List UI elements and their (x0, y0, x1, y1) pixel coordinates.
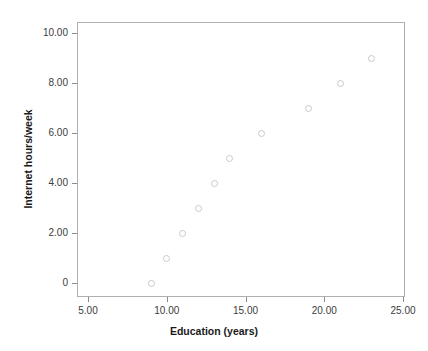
x-tick-label: 20.00 (312, 305, 337, 316)
y-axis-title: Internet hours/week (22, 49, 34, 269)
plot-area-frame (77, 22, 405, 297)
y-tick-label: 4.00 (49, 178, 68, 188)
x-tick-label: 5.00 (78, 305, 97, 316)
y-tick-mark (72, 33, 77, 34)
y-tick-mark (72, 283, 77, 284)
x-tick-mark (88, 297, 89, 302)
x-tick-label: 10.00 (154, 305, 179, 316)
x-tick-mark (403, 297, 404, 302)
x-axis-title: Education (years) (0, 325, 428, 337)
y-tick-label: 6.00 (49, 128, 68, 138)
x-tick-mark (246, 297, 247, 302)
y-tick-label: 8.00 (49, 78, 68, 88)
x-tick-label: 25.00 (390, 305, 415, 316)
x-tick-mark (167, 297, 168, 302)
y-tick-label: 0 (62, 278, 68, 288)
scatter-plot-figure: 02.004.006.008.0010.00 5.0010.0015.0020.… (0, 0, 428, 351)
y-tick-label: 2.00 (49, 228, 68, 238)
x-tick-label: 15.00 (233, 305, 258, 316)
y-tick-mark (72, 233, 77, 234)
y-tick-mark (72, 133, 77, 134)
x-tick-mark (324, 297, 325, 302)
y-tick-label: 10.00 (43, 28, 68, 38)
y-tick-mark (72, 183, 77, 184)
y-tick-mark (72, 83, 77, 84)
